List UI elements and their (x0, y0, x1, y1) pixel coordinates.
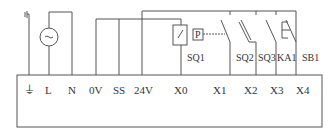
terminal-x1-label: X1 (213, 84, 226, 96)
ka1-label: KA1 (277, 52, 296, 63)
sq2-label: SQ2 (236, 52, 254, 63)
sb1-label: SB1 (302, 52, 319, 63)
ac-power-circuit (40, 12, 72, 75)
terminal-x3-label: X3 (270, 84, 284, 96)
terminal-x4-label: X4 (296, 84, 310, 96)
24v-common-bus (142, 11, 296, 75)
terminal-l-label: L (45, 84, 52, 96)
sq1-limit-switch-icon (173, 19, 187, 75)
terminal-ground-label: ⏚ (24, 84, 35, 96)
terminal-ss-label: SS (113, 84, 125, 96)
terminal-0v-label: 0V (89, 84, 103, 96)
ground-icon (25, 11, 29, 75)
terminal-x0-label: X0 (174, 84, 188, 96)
sq2-pressure-switch-icon (193, 11, 230, 75)
sq3-label: SQ3 (258, 52, 276, 63)
sb1-pushbutton-icon (282, 11, 296, 75)
plc-wiring-diagram: SQ1 P SQ2 SQ3 KA1 SB1 ⏚ L N 0V SS 24V X0… (0, 0, 333, 139)
terminal-x2-label: X2 (244, 84, 257, 96)
sq2-actuator-label: P (195, 29, 201, 40)
sq3-switch-icon (239, 11, 256, 75)
ka1-contact-icon (266, 11, 276, 75)
sq1-label: SQ1 (187, 52, 205, 63)
terminal-24v-label: 24V (134, 84, 153, 96)
plc-terminal-block (17, 75, 322, 127)
0v-ss-link (96, 19, 181, 75)
terminal-n-label: N (68, 84, 76, 96)
